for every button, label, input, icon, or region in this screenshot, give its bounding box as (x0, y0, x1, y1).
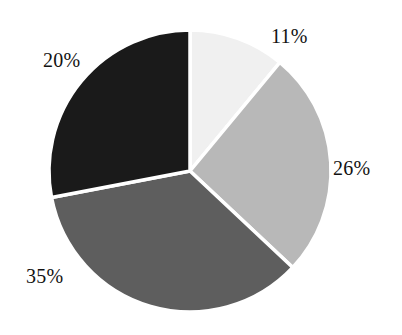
pie-slice-group (49, 30, 331, 312)
slice-label-35-percent: 35% (26, 266, 63, 286)
slice-label-20-percent: 20% (43, 50, 80, 70)
slice-label-11-percent: 11% (271, 26, 308, 46)
pie-chart: 11% 26% 35% 20% (0, 0, 402, 335)
slice-label-26-percent: 26% (333, 158, 370, 178)
